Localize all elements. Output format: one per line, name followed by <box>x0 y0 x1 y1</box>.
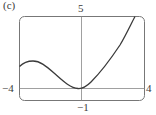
plot-area <box>0 0 156 115</box>
function-curve <box>20 17 136 89</box>
